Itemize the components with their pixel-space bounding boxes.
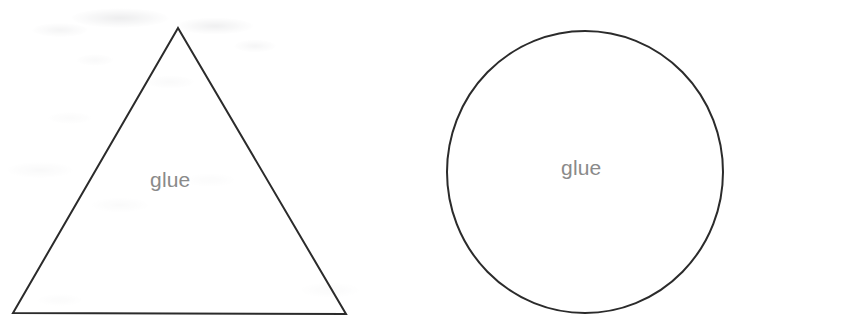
triangle-glue-label: glue: [150, 169, 191, 190]
worksheet-canvas: glue glue: [0, 0, 865, 322]
shapes-drawing: [0, 0, 865, 322]
circle-glue-label: glue: [561, 157, 602, 178]
